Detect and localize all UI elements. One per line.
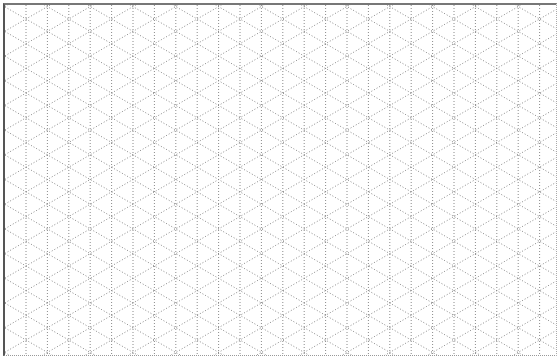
isometric-grid-lines <box>5 5 557 356</box>
graph-paper-page <box>0 0 560 359</box>
isometric-grid-sheet <box>3 3 557 356</box>
